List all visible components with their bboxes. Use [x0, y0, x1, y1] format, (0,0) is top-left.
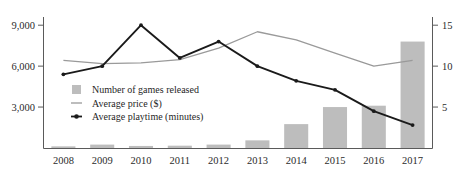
- x-tick-label-2012: 2012: [208, 155, 229, 166]
- legend-label-1: Average price ($): [92, 98, 162, 110]
- playtime-point-2016: [372, 109, 376, 113]
- left-tick-label-9000: 9,000: [11, 20, 35, 31]
- x-tick-label-2016: 2016: [363, 155, 384, 166]
- bar-2013: [245, 140, 269, 148]
- x-tick-label-2010: 2010: [131, 155, 152, 166]
- combo-chart: 3,0006,0009,000 51015 200820092010201120…: [0, 0, 471, 176]
- x-tick-label-2008: 2008: [53, 155, 74, 166]
- x-tick-label-2015: 2015: [325, 155, 346, 166]
- left-tick-label-3000: 3,000: [11, 102, 35, 113]
- right-axis-ticks: [433, 25, 439, 107]
- playtime-point-2017: [411, 123, 415, 127]
- bar-2015: [323, 107, 347, 148]
- right-axis-tick-labels: 51015: [442, 20, 453, 113]
- x-tick-label-2011: 2011: [169, 155, 190, 166]
- right-tick-label-10: 10: [442, 61, 453, 72]
- playtime-point-2014: [294, 79, 298, 83]
- right-tick-label-15: 15: [442, 20, 453, 31]
- bar-2014: [284, 124, 308, 148]
- playtime-point-2015: [333, 88, 337, 92]
- playtime-point-2009: [100, 64, 104, 68]
- bar-2012: [207, 145, 231, 148]
- bar-2010: [129, 146, 153, 148]
- bar-2009: [90, 145, 114, 148]
- left-axis-ticks: [38, 25, 44, 107]
- playtime-point-2008: [62, 72, 66, 76]
- legend-swatch-games-released: [72, 85, 81, 94]
- x-tick-label-2009: 2009: [92, 155, 113, 166]
- legend-label-0: Number of games released: [92, 84, 199, 95]
- price-line-path: [63, 32, 412, 66]
- left-tick-label-6000: 6,000: [11, 61, 35, 72]
- legend-label-2: Average playtime (minutes): [92, 111, 203, 123]
- bar-2008: [51, 146, 75, 148]
- playtime-point-2013: [256, 64, 260, 68]
- playtime-point-2010: [139, 23, 143, 27]
- x-tick-label-2013: 2013: [247, 155, 268, 166]
- x-tick-label-2017: 2017: [402, 155, 423, 166]
- x-axis-tick-labels: 2008200920102011201220132014201520162017: [53, 155, 423, 166]
- chart-legend: Number of games releasedAverage price ($…: [71, 84, 203, 123]
- line-series-average-price: [63, 32, 412, 66]
- bar-2017: [401, 42, 425, 148]
- left-axis-tick-labels: 3,0006,0009,000: [11, 20, 35, 113]
- playtime-point-2012: [217, 40, 221, 44]
- playtime-point-2011: [178, 56, 182, 60]
- right-tick-label-5: 5: [442, 102, 447, 113]
- bar-2011: [168, 146, 192, 148]
- legend-marker-diamond: [74, 114, 79, 119]
- x-tick-label-2014: 2014: [286, 155, 308, 166]
- chart-container: 3,0006,0009,000 51015 200820092010201120…: [0, 0, 471, 176]
